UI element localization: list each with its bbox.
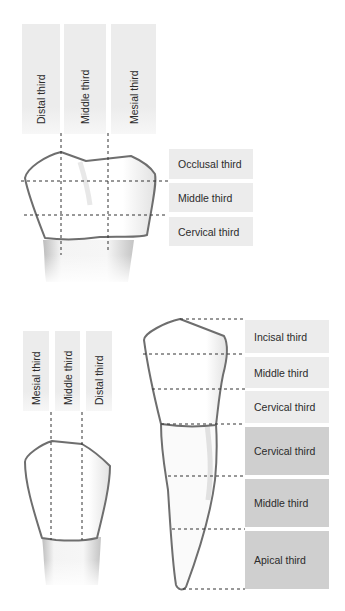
label-text: Middle third: [254, 497, 308, 509]
label-text: Mesial third: [128, 70, 140, 124]
molar-occlusal-third-label: Occlusal third: [169, 149, 253, 179]
label-text: Middle third: [178, 192, 232, 204]
canine-incisal-third-label: Incisal third: [245, 320, 329, 353]
label-text: Middle third: [79, 70, 91, 124]
label-text: Occlusal third: [178, 158, 242, 170]
label-text: Middle third: [254, 367, 308, 379]
canine-root-middle-third-label: Middle third: [245, 479, 329, 527]
label-text: Cervical third: [254, 445, 315, 457]
label-text: Mesial third: [30, 351, 42, 405]
molar-illustration: [21, 133, 168, 285]
canine-apical-third-label: Apical third: [245, 531, 329, 589]
label-text: Middle third: [62, 351, 74, 405]
molar-mesial-third-label: Mesial third: [111, 24, 156, 134]
label-text: Incisal third: [254, 331, 307, 343]
label-text: Distal third: [93, 355, 105, 405]
molar-distal-third-label: Distal third: [22, 24, 60, 134]
incisor-middle-third-label: Middle third: [55, 331, 80, 411]
incisor-distal-third-label: Distal third: [86, 331, 112, 411]
canine-root-cervical-third-label: Cervical third: [245, 427, 329, 475]
label-text: Distal third: [35, 74, 47, 124]
incisor-illustration: [25, 412, 110, 590]
canine-crown-middle-third-label: Middle third: [245, 357, 329, 388]
canine-illustration: [143, 319, 245, 589]
label-text: Apical third: [254, 554, 306, 566]
incisor-mesial-third-label: Mesial third: [23, 331, 49, 411]
label-text: Cervical third: [254, 401, 315, 413]
molar-middle-third-label: Middle third: [64, 24, 106, 134]
label-text: Cervical third: [178, 226, 239, 238]
molar-cervical-third-label: Cervical third: [169, 217, 253, 246]
canine-crown-cervical-third-label: Cervical third: [245, 391, 329, 423]
molar-middle-third-row-label: Middle third: [169, 183, 253, 212]
